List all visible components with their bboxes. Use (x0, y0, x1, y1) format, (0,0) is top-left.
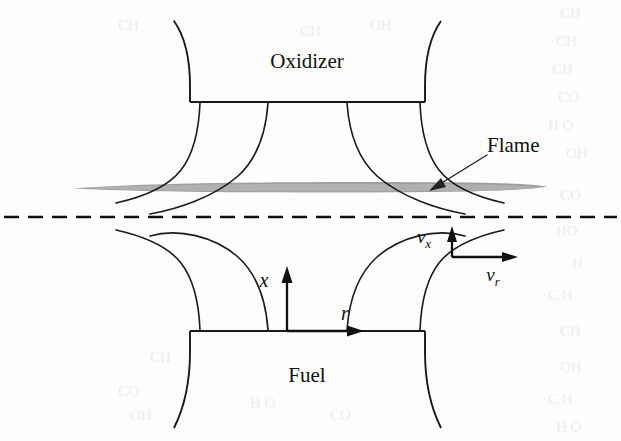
fuel-streamlines (116, 230, 504, 330)
svg-text:CH: CH (300, 23, 321, 39)
svg-text:H: H (572, 255, 583, 271)
flame-label: Flame (487, 133, 540, 157)
svg-text:H O: H O (556, 419, 582, 435)
coordinate-axes: x r (259, 266, 364, 337)
svg-text:CH: CH (556, 33, 577, 49)
svg-text:OH: OH (560, 359, 582, 375)
svg-text:CO: CO (560, 187, 581, 203)
velocity-vectors: vx vr (417, 226, 518, 289)
vx-label-subscript: x (424, 236, 431, 251)
vr-arrowhead (502, 252, 518, 262)
x-axis-label: x (259, 269, 269, 291)
svg-text:HO: HO (556, 223, 578, 239)
flame-leader-line (440, 155, 487, 184)
svg-text:H O: H O (548, 117, 574, 133)
vx-label: vx (417, 226, 431, 251)
svg-text:C H: C H (548, 391, 573, 407)
oxidizer-label: Oxidizer (270, 49, 343, 73)
svg-text:OH: OH (566, 145, 588, 161)
vr-label: vr (486, 264, 500, 289)
r-axis-label: r (341, 302, 349, 324)
r-axis-arrowhead (347, 326, 364, 337)
svg-text:CO: CO (118, 383, 139, 399)
svg-text:H O: H O (250, 395, 276, 411)
svg-text:OH: OH (130, 407, 152, 423)
svg-text:CH: CH (560, 5, 581, 21)
vr-label-subscript: r (495, 274, 501, 289)
figure-canvas: CH CH CH CO H O OH CO HO H C H CH OH C H… (0, 0, 621, 441)
flame-sheet (74, 182, 547, 192)
svg-text:CH: CH (552, 61, 573, 77)
counterflow-flame-diagram: CH CH CH CO H O OH CO HO H C H CH OH C H… (0, 0, 621, 441)
svg-text:OH: OH (370, 17, 392, 33)
svg-text:CH: CH (150, 349, 171, 365)
svg-text:CH: CH (560, 323, 581, 339)
svg-text:CO: CO (558, 89, 579, 105)
svg-text:CH: CH (118, 17, 139, 33)
svg-text:C H: C H (548, 287, 573, 303)
x-axis-arrowhead (282, 266, 293, 283)
fuel-label: Fuel (288, 363, 326, 387)
svg-text:CO: CO (330, 407, 351, 423)
flame-callout: Flame (429, 133, 540, 191)
